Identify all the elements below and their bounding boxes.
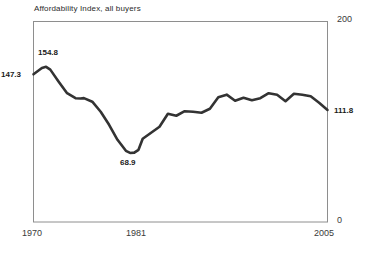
chart-page: Affordability Index, all buyers 200 0 19… (0, 0, 377, 257)
x-axis-tick-1981: 1981 (126, 228, 146, 238)
annotation-peak-value: 154.8 (38, 48, 58, 57)
annotation-end-value: 111.8 (334, 106, 353, 115)
y-axis-tick-200: 200 (337, 14, 352, 24)
annotation-trough-value: 68.9 (120, 158, 136, 167)
y-axis-tick-0: 0 (337, 215, 342, 225)
x-axis-tick-2005: 2005 (314, 228, 334, 238)
x-axis-tick-1970: 1970 (22, 228, 42, 238)
annotation-start-value: 147.3 (1, 70, 21, 79)
plot-frame (34, 22, 328, 223)
affordability-index-line-chart (0, 0, 377, 257)
data-series-line (34, 67, 328, 153)
